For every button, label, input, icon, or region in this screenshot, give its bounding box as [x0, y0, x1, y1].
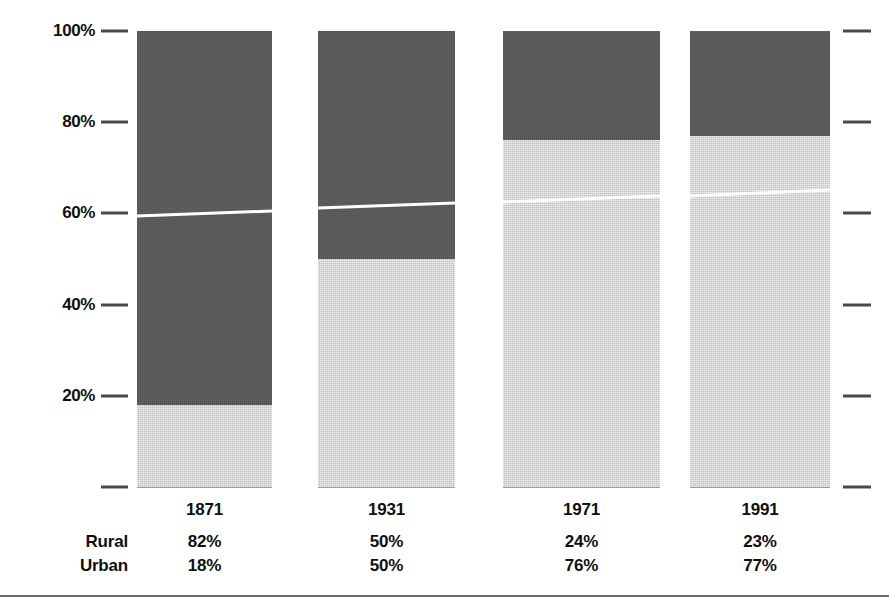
- y-axis-label-100: 100%: [53, 21, 95, 41]
- bar-1971[interactable]: [503, 31, 660, 487]
- table-cell-rural-1991: 23%: [690, 532, 830, 552]
- table-cell-urban-1871: 18%: [137, 556, 272, 576]
- x-axis-label-1871: 1871: [137, 500, 272, 520]
- y-tick-mark-right-0: [843, 486, 871, 489]
- bar-segment-rural-1971[interactable]: [503, 31, 660, 140]
- y-tick-mark-left-20: [101, 395, 128, 398]
- table-cell-rural-1871: 82%: [137, 532, 272, 552]
- y-tick-mark-right-40: [843, 304, 871, 307]
- bar-1991[interactable]: [690, 31, 830, 487]
- bar-segment-urban-1931[interactable]: [318, 259, 455, 488]
- bar-segment-urban-1991[interactable]: [690, 136, 830, 488]
- bottom-divider-rule: [0, 595, 889, 597]
- y-axis-label-40: 40%: [62, 295, 95, 315]
- y-tick-mark-left-0: [101, 486, 128, 489]
- table-row-label-rural: Rural: [0, 532, 128, 552]
- table-row-label-urban: Urban: [0, 556, 128, 576]
- bar-segment-rural-1991[interactable]: [690, 31, 830, 136]
- y-axis-label-60: 60%: [62, 203, 95, 223]
- stacked-bar-chart-figure: 100% 80% 60% 40% 20%: [0, 0, 889, 607]
- y-tick-mark-right-100: [843, 30, 871, 33]
- y-tick-mark-left-60: [101, 212, 128, 215]
- table-cell-urban-1931: 50%: [318, 556, 455, 576]
- y-tick-mark-left-100: [101, 30, 128, 33]
- y-axis-label-20: 20%: [62, 386, 95, 406]
- y-tick-mark-right-60: [843, 212, 871, 215]
- table-cell-rural-1971: 24%: [503, 532, 660, 552]
- bar-segment-urban-1871[interactable]: [137, 405, 272, 488]
- y-tick-mark-right-80: [843, 121, 871, 124]
- y-tick-mark-left-80: [101, 121, 128, 124]
- bar-segment-rural-1931[interactable]: [318, 31, 455, 259]
- bar-1871[interactable]: [137, 31, 272, 487]
- table-cell-urban-1971: 76%: [503, 556, 660, 576]
- y-tick-mark-left-40: [101, 304, 128, 307]
- x-axis-label-1971: 1971: [503, 500, 660, 520]
- x-axis-label-1931: 1931: [318, 500, 455, 520]
- y-axis-label-80: 80%: [62, 112, 95, 132]
- x-axis-label-1991: 1991: [690, 500, 830, 520]
- bar-1931[interactable]: [318, 31, 455, 487]
- table-cell-urban-1991: 77%: [690, 556, 830, 576]
- y-tick-mark-right-20: [843, 395, 871, 398]
- table-cell-rural-1931: 50%: [318, 532, 455, 552]
- bar-segment-urban-1971[interactable]: [503, 140, 660, 488]
- bar-segment-rural-1871[interactable]: [137, 31, 272, 405]
